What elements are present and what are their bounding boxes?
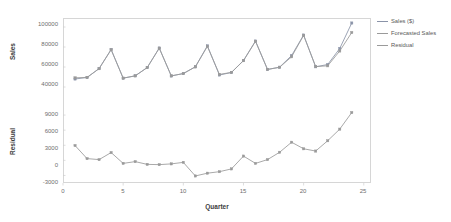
data-point-marker bbox=[218, 73, 220, 75]
data-point-marker bbox=[254, 40, 256, 42]
data-point-marker bbox=[74, 77, 76, 79]
data-point-marker bbox=[315, 150, 317, 152]
data-point-marker bbox=[278, 66, 280, 68]
legend-label-forecasted-sales: Forecasted Sales bbox=[391, 30, 436, 37]
data-point-marker bbox=[339, 128, 341, 130]
chart-legend: Sales ($) Forecasted Sales Residual bbox=[377, 17, 449, 53]
data-point-marker bbox=[242, 155, 244, 157]
data-point-marker bbox=[158, 163, 160, 165]
data-point-marker bbox=[230, 71, 232, 73]
legend-item-residual[interactable]: Residual bbox=[377, 41, 449, 50]
data-point-marker bbox=[278, 151, 280, 153]
data-point-marker bbox=[206, 172, 208, 174]
data-point-marker bbox=[170, 75, 172, 77]
legend-swatch-residual bbox=[377, 45, 388, 46]
data-point-marker bbox=[98, 68, 100, 70]
data-point-marker bbox=[134, 75, 136, 77]
legend-label-sales: Sales ($) bbox=[391, 18, 414, 25]
legend-item-forecasted-sales[interactable]: Forecasted Sales bbox=[377, 29, 449, 38]
series-line bbox=[75, 113, 352, 176]
data-point-marker bbox=[254, 162, 256, 164]
data-point-marker bbox=[146, 163, 148, 165]
data-point-marker bbox=[351, 31, 353, 33]
data-point-marker bbox=[134, 160, 136, 162]
data-point-marker bbox=[98, 158, 100, 160]
series-line bbox=[75, 23, 352, 79]
data-point-marker bbox=[266, 68, 268, 70]
data-point-marker bbox=[218, 171, 220, 173]
data-point-marker bbox=[206, 45, 208, 47]
data-point-marker bbox=[194, 66, 196, 68]
data-point-marker bbox=[351, 22, 353, 24]
series-line bbox=[75, 33, 352, 79]
data-point-marker bbox=[351, 111, 353, 113]
data-point-marker bbox=[230, 168, 232, 170]
data-point-marker bbox=[110, 151, 112, 153]
data-point-marker bbox=[146, 66, 148, 68]
data-point-marker bbox=[122, 77, 124, 79]
data-point-marker bbox=[158, 47, 160, 49]
data-point-marker bbox=[74, 144, 76, 146]
data-point-marker bbox=[194, 175, 196, 177]
legend-swatch-forecasted-sales bbox=[377, 33, 388, 34]
legend-label-residual: Residual bbox=[391, 42, 414, 49]
data-point-marker bbox=[86, 76, 88, 78]
data-point-marker bbox=[110, 49, 112, 51]
data-point-marker bbox=[86, 157, 88, 159]
data-point-marker bbox=[302, 34, 304, 36]
data-point-marker bbox=[290, 56, 292, 58]
data-point-marker bbox=[242, 60, 244, 62]
data-point-marker bbox=[182, 161, 184, 163]
legend-swatch-sales bbox=[377, 21, 388, 22]
data-point-marker bbox=[327, 140, 329, 142]
data-point-marker bbox=[315, 65, 317, 67]
data-point-marker bbox=[327, 65, 329, 67]
chart-page: 100000 80000 60000 40000 9000 6000 3000 … bbox=[0, 0, 451, 222]
data-point-marker bbox=[170, 163, 172, 165]
data-point-marker bbox=[182, 72, 184, 74]
data-point-marker bbox=[302, 148, 304, 150]
data-point-marker bbox=[266, 158, 268, 160]
data-point-marker bbox=[122, 162, 124, 164]
data-point-marker bbox=[290, 141, 292, 143]
data-point-marker bbox=[339, 50, 341, 52]
legend-item-sales[interactable]: Sales ($) bbox=[377, 17, 449, 26]
